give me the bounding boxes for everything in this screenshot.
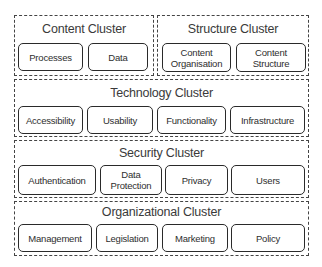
node-label: Marketing: [175, 233, 215, 244]
security-cluster: Security Cluster Authentication Data Pro…: [14, 140, 309, 198]
node-data: Data: [88, 43, 148, 71]
node-marketing: Marketing: [162, 224, 228, 252]
node-accessibility: Accessibility: [18, 106, 83, 134]
node-processes: Processes: [18, 43, 83, 71]
node-content-organisation: Content Organisation: [162, 43, 231, 72]
organizational-cluster: Organizational Cluster Management Legisl…: [14, 201, 309, 256]
node-infrastructure: Infrastructure: [230, 106, 305, 134]
content-cluster: Content Cluster Processes Data: [14, 15, 154, 76]
node-label-line2: Protection: [111, 180, 152, 191]
node-label: Functionality: [166, 115, 217, 126]
node-data-protection: Data Protection: [100, 165, 162, 195]
node-label: Usability: [103, 115, 137, 126]
node-label: Management: [28, 233, 81, 244]
node-authentication: Authentication: [18, 165, 96, 195]
node-label-line1: Data: [121, 169, 140, 180]
node-label: Accessibility: [26, 115, 75, 126]
node-privacy: Privacy: [165, 165, 228, 195]
node-label: Infrastructure: [241, 115, 294, 126]
node-label: Processes: [29, 52, 72, 63]
node-functionality: Functionality: [157, 106, 226, 134]
node-policy: Policy: [231, 224, 305, 252]
node-label: Data: [108, 52, 127, 63]
node-legislation: Legislation: [96, 224, 158, 252]
node-label: Authentication: [28, 175, 85, 186]
node-label-line1: Content: [255, 47, 287, 58]
security-cluster-title: Security Cluster: [15, 146, 308, 160]
technology-cluster-title: Technology Cluster: [15, 86, 308, 100]
node-label: Users: [256, 175, 280, 186]
node-label-line1: Content: [181, 47, 213, 58]
structure-cluster: Structure Cluster Content Organisation C…: [157, 15, 309, 76]
technology-cluster: Technology Cluster Accessibility Usabili…: [14, 79, 309, 137]
node-label: Policy: [256, 233, 280, 244]
node-content-structure: Content Structure: [236, 43, 306, 72]
node-management: Management: [18, 224, 92, 252]
structure-cluster-title: Structure Cluster: [158, 22, 308, 36]
node-label-line2: Organisation: [171, 58, 222, 69]
node-label: Legislation: [105, 233, 148, 244]
node-label-line2: Structure: [253, 58, 290, 69]
node-label: Privacy: [182, 175, 212, 186]
node-users: Users: [231, 165, 305, 195]
organizational-cluster-title: Organizational Cluster: [15, 205, 308, 219]
content-cluster-title: Content Cluster: [15, 22, 153, 36]
node-usability: Usability: [87, 106, 153, 134]
